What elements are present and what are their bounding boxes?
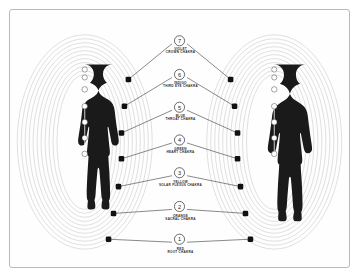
chakra-number-5: 5 (178, 105, 181, 111)
chakra-number-4: 4 (178, 137, 181, 143)
chakra-number-2: 2 (178, 204, 181, 210)
chakra-number-7: 7 (178, 38, 181, 44)
chakra-diagram-canvas: 7 6 5 4 3 (10, 10, 349, 267)
chakra-badge-2: 2 (174, 201, 184, 211)
chakra-number-3: 3 (178, 170, 181, 176)
chakra-badge-1: 1 (174, 234, 184, 244)
center-chakra-badges: 7 6 5 4 3 (174, 36, 184, 245)
chakra-number-6: 6 (178, 72, 181, 78)
diagram-frame: 7 6 5 4 3 (9, 9, 350, 268)
chakra-badge-6: 6 (174, 69, 184, 79)
chakra-number-1: 1 (178, 236, 181, 242)
chakra-badge-5: 5 (174, 102, 184, 112)
chakra-badge-4: 4 (174, 135, 184, 145)
chakra-badge-7: 7 (174, 36, 184, 46)
chakra-badge-3: 3 (174, 168, 184, 178)
